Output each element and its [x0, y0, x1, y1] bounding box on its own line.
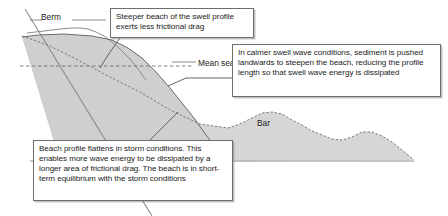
callout-steeper-beach: Steeper beach of the swell profile exert…: [110, 8, 254, 38]
calmer-callout-leader: [168, 78, 232, 86]
bar-label: Bar: [257, 118, 270, 128]
beach-profile-diagram: Berm Mean sea level Bar Steeper beach of…: [0, 0, 448, 216]
callout-storm-conditions: Beach profile flattens in storm conditio…: [33, 140, 233, 201]
callout-calmer-swell-conditions: In calmer swell wave conditions, sedimen…: [232, 44, 441, 97]
berm-label: Berm: [41, 12, 61, 22]
